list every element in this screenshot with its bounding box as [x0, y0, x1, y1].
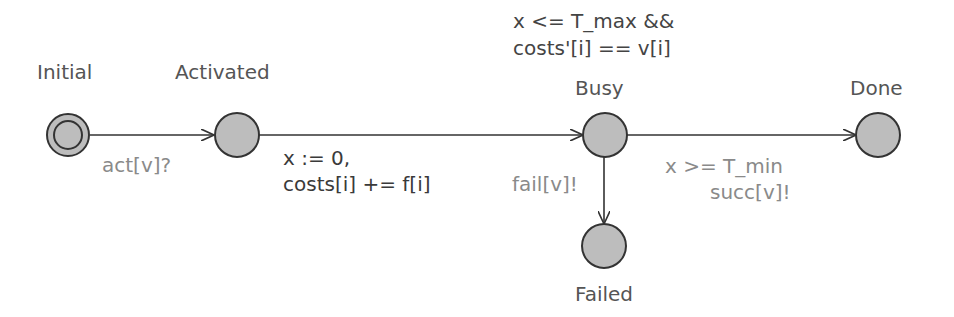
location-name-failed: Failed — [575, 282, 633, 306]
location-name-activated: Activated — [175, 60, 270, 84]
invariant-busy-line1: x <= T_max && — [513, 9, 674, 33]
update-line1: x := 0, — [283, 146, 350, 170]
location-name-initial: Initial — [37, 60, 92, 84]
update-line2: costs[i] += f[i] — [283, 172, 431, 196]
sync-act: act[v]? — [102, 153, 171, 177]
invariant-busy-line2: costs'[i] == v[i] — [513, 36, 671, 60]
sync-succ: succ[v]! — [710, 180, 791, 204]
location-activated[interactable] — [215, 113, 259, 157]
location-busy[interactable] — [583, 113, 627, 157]
guard-tmin: x >= T_min — [665, 154, 783, 178]
location-done[interactable] — [856, 113, 900, 157]
location-name-busy: Busy — [575, 76, 624, 100]
location-failed[interactable] — [582, 224, 626, 268]
sync-fail: fail[v]! — [512, 172, 578, 196]
location-name-done: Done — [850, 76, 903, 100]
location-initial[interactable] — [47, 114, 89, 156]
